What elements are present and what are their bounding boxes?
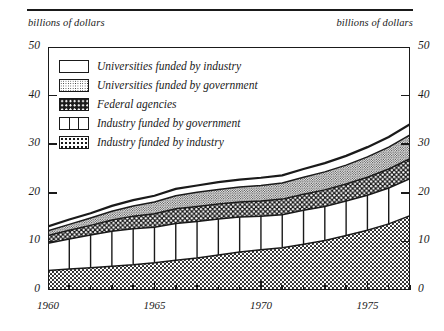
y-tickmark-left-10 [48, 241, 57, 243]
x-tickmark-1966 [175, 285, 177, 290]
x-tick-label-1975: 1975 [352, 299, 382, 311]
y-tickmark-right-40 [401, 95, 410, 97]
legend-label-federal_agencies: Federal agencies [97, 99, 177, 111]
right-axis-caption: billions of dollars [336, 17, 413, 28]
y-tickmark-left-40 [48, 95, 57, 97]
y-tick-label-right-20: 20 [418, 185, 430, 197]
y-tick-label-right-50: 50 [418, 39, 430, 51]
legend-label-industry_industry: Industry funded by industry [97, 137, 224, 149]
x-tickmark-1974 [345, 285, 347, 290]
header-rule [27, 9, 413, 11]
x-tickmark-1965 [154, 281, 156, 290]
y-tickmark-right-30 [401, 143, 410, 145]
legend-item-federal_agencies: Federal agencies [59, 95, 258, 114]
y-tick-label-left-30: 30 [14, 136, 40, 148]
y-tick-label-left-0: 0 [14, 282, 40, 294]
y-tick-label-left-10: 10 [14, 233, 40, 245]
legend-swatch-univ_industry [59, 60, 89, 73]
legend-label-univ_industry: Universities funded by industry [97, 61, 241, 73]
x-tickmark-1970 [260, 281, 262, 290]
y-tickmark-right-10 [401, 241, 410, 243]
x-tick-label-1965: 1965 [139, 299, 169, 311]
x-tickmark-1972 [303, 285, 305, 290]
x-tickmark-1976 [388, 285, 390, 290]
y-tick-label-right-10: 10 [418, 233, 430, 245]
x-tickmark-1971 [281, 285, 283, 290]
x-tickmark-1975 [367, 281, 369, 290]
x-tickmark-1973 [324, 285, 326, 290]
left-axis-caption: billions of dollars [28, 17, 105, 28]
x-tickmark-1969 [239, 285, 241, 290]
legend-swatch-univ_government [59, 79, 89, 92]
y-tick-label-left-20: 20 [14, 185, 40, 197]
x-tickmark-1967 [196, 285, 198, 290]
legend-swatch-federal_agencies [59, 98, 89, 111]
legend-label-univ_government: Universities funded by government [97, 80, 258, 92]
x-tickmark-1964 [132, 285, 134, 290]
y-tickmark-left-30 [48, 143, 57, 145]
legend-item-univ_government: Universities funded by government [59, 76, 258, 95]
y-tickmark-left-20 [48, 192, 57, 194]
y-tick-label-right-30: 30 [418, 136, 430, 148]
x-tickmark-1968 [218, 285, 220, 290]
x-tickmark-1977 [409, 285, 411, 290]
y-tickmark-right-20 [401, 192, 410, 194]
x-tick-label-1970: 1970 [246, 299, 276, 311]
x-tickmark-1962 [90, 285, 92, 290]
legend-label-industry_government: Industry funded by government [97, 118, 240, 130]
x-tick-label-1960: 1960 [33, 299, 63, 311]
legend-item-industry_industry: Industry funded by industry [59, 133, 258, 152]
legend-swatch-industry_industry [59, 136, 89, 149]
chart-legend: Universities funded by industryUniversit… [59, 57, 258, 152]
y-tick-label-right-40: 40 [418, 88, 430, 100]
chart-figure: billions of dollars billions of dollars … [0, 0, 444, 331]
legend-item-industry_government: Industry funded by government [59, 114, 258, 133]
y-tick-label-left-40: 40 [14, 88, 40, 100]
legend-item-univ_industry: Universities funded by industry [59, 57, 258, 76]
legend-swatch-industry_government [59, 117, 89, 130]
x-tickmark-1963 [111, 285, 113, 290]
y-tick-label-right-0: 0 [418, 282, 424, 294]
y-tick-label-left-50: 50 [14, 39, 40, 51]
x-tickmark-1961 [68, 285, 70, 290]
